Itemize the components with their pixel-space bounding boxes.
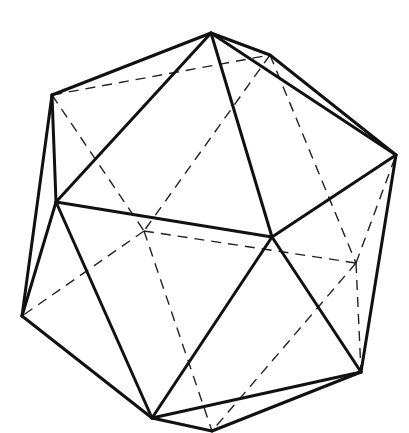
visible-edge-BE	[52, 95, 56, 202]
visible-edge-CD	[270, 55, 396, 155]
visible-edge-BG	[22, 95, 52, 316]
icosahedron-drawing	[0, 0, 409, 433]
visible-edge-IL	[152, 418, 212, 431]
visible-edge-EG	[22, 202, 56, 316]
hidden-edge-KD	[356, 155, 396, 263]
hidden-edge-JG	[22, 231, 144, 316]
visible-edge-FI	[152, 237, 272, 418]
hidden-edge-KH	[356, 263, 361, 372]
hidden-edge-CJ	[144, 55, 270, 231]
hidden-edge-BJ	[52, 95, 144, 231]
hidden-edge-KL	[212, 263, 356, 431]
visible-edge-AF	[211, 33, 272, 237]
visible-edge-EF	[56, 202, 272, 237]
visible-edge-AB	[52, 33, 211, 95]
hidden-edge-JK	[144, 231, 356, 263]
visible-edge-DH	[361, 155, 396, 372]
visible-edge-LH	[212, 372, 361, 431]
hidden-edge-CK	[270, 55, 356, 263]
visible-edge-GI	[22, 316, 152, 418]
visible-edge-AE	[56, 33, 211, 202]
visible-edge-EI	[56, 202, 152, 418]
visible-edges	[22, 33, 396, 431]
hidden-edge-JL	[144, 231, 212, 431]
visible-edge-DF	[272, 155, 396, 237]
visible-edge-IH	[152, 372, 361, 418]
